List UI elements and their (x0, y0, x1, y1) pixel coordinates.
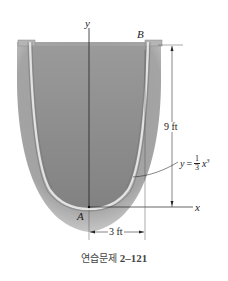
x-axis-label: x (195, 202, 200, 213)
caption-prefix: 연습문제 (81, 253, 117, 264)
equation-variable: x3 (202, 158, 209, 169)
point-a-label: A (77, 211, 84, 222)
point-b-label: B (137, 29, 144, 40)
point-a-dot (88, 206, 90, 208)
y-axis-label: y (85, 18, 90, 29)
equation-denominator: 3 (195, 164, 199, 172)
equation-exponent: 3 (207, 158, 210, 164)
equation-equals: = (186, 158, 192, 169)
equation-lhs: y (180, 158, 184, 169)
curve-equation: y = 1 3 x3 (180, 155, 210, 172)
left-flange (18, 40, 35, 46)
tank-figure (0, 0, 228, 281)
equation-fraction: 1 3 (194, 155, 200, 172)
figure-caption: 연습문제 2–121 (0, 250, 228, 265)
height-dimension-label: 9 ft (163, 122, 179, 132)
caption-number: 2–121 (120, 252, 148, 264)
width-dimension-label: 3 ft (108, 227, 124, 237)
